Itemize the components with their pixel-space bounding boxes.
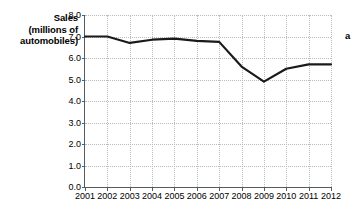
gridline-vertical [331, 15, 332, 187]
y-axis-title-line-2: (millions of [0, 24, 78, 36]
x-axis-tick-label: 2008 [232, 191, 252, 201]
x-axis-tick-label: 2010 [276, 191, 296, 201]
y-axis-tick-label: 3.0 [68, 118, 81, 128]
x-axis-tick-label: 2005 [164, 191, 184, 201]
x-axis-tick-mark [197, 187, 198, 191]
x-axis-tick-label: 2011 [299, 191, 318, 201]
x-axis-tick-label: 2001 [75, 191, 95, 201]
x-axis-tick-label: 2004 [142, 191, 162, 201]
x-axis-tick-mark [85, 187, 86, 191]
y-axis-tick-label: 1.0 [68, 161, 81, 171]
x-axis-tick-mark [331, 187, 332, 191]
y-axis-tick-label: 7.0 [68, 32, 81, 42]
x-axis-tick-mark [309, 187, 310, 191]
y-axis-title: Sales (millions of automobiles) [0, 12, 78, 47]
x-axis-tick-mark [219, 187, 220, 191]
sales-line-chart: Sales (millions of automobiles) 0.01.02.… [0, 0, 360, 221]
x-axis-tick-mark [152, 187, 153, 191]
y-axis-title-line-3: automobiles) [0, 35, 78, 47]
plot-area: 0.01.02.03.04.05.06.07.08.0 200120022003… [84, 15, 331, 188]
series-polyline [85, 37, 331, 82]
x-axis-tick-mark [286, 187, 287, 191]
x-axis-tick-mark [174, 187, 175, 191]
x-axis-tick-label: 2009 [254, 191, 274, 201]
y-axis-tick-label: 5.0 [68, 75, 81, 85]
x-axis-tick-mark [107, 187, 108, 191]
series-line [85, 15, 331, 187]
y-axis-tick-label: 6.0 [68, 53, 81, 63]
x-axis-tick-mark [264, 187, 265, 191]
y-axis-tick-label: 4.0 [68, 96, 81, 106]
x-axis-tick-mark [242, 187, 243, 191]
x-axis-tick-mark [130, 187, 131, 191]
y-axis-tick-label: 2.0 [68, 139, 81, 149]
y-axis-tick-label: 8.0 [68, 10, 81, 20]
x-axis-tick-label: 2006 [187, 191, 207, 201]
x-axis-tick-label: 2012 [321, 191, 341, 201]
x-axis-tick-label: 2002 [97, 191, 117, 201]
x-axis-tick-label: 2007 [209, 191, 229, 201]
annotation-label-a: a [345, 30, 350, 41]
y-axis-title-line-1: Sales [0, 12, 78, 24]
plot-inner: 0.01.02.03.04.05.06.07.08.0 200120022003… [85, 15, 331, 187]
x-axis-tick-label: 2003 [120, 191, 140, 201]
